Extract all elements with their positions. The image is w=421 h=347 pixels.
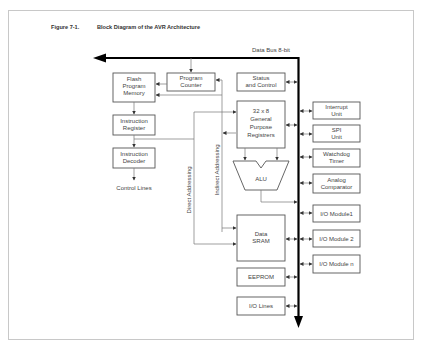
instruction-decoder-block: Instruction Decoder bbox=[113, 148, 155, 168]
svg-text:Decoder: Decoder bbox=[123, 158, 146, 164]
control-lines-label: Control Lines bbox=[116, 185, 151, 191]
svg-text:Register: Register bbox=[123, 125, 145, 131]
svg-text:EEPROM: EEPROM bbox=[248, 274, 274, 280]
peripheral-analog-comparator: Analog Comparator bbox=[313, 174, 360, 193]
svg-text:Registrers: Registrers bbox=[247, 132, 274, 138]
svg-text:I/O Module n: I/O Module n bbox=[319, 261, 353, 267]
svg-text:Interrupt: Interrupt bbox=[325, 104, 348, 110]
bus-arrow-left-icon bbox=[93, 54, 106, 63]
svg-text:I/O Module 2: I/O Module 2 bbox=[319, 236, 354, 242]
program-counter-block: Program Counter bbox=[167, 73, 215, 91]
svg-text:Analog: Analog bbox=[327, 177, 346, 183]
svg-text:Watchdog: Watchdog bbox=[323, 151, 350, 157]
avr-block-diagram: Figure 7-1. Block Diagram of the AVR Arc… bbox=[0, 0, 421, 347]
direct-addressing-label: Direct Addressing bbox=[186, 166, 192, 213]
peripheral-spi-unit: SPI Unit bbox=[313, 125, 360, 142]
svg-text:Program: Program bbox=[122, 83, 145, 89]
svg-text:Data: Data bbox=[255, 231, 268, 237]
bus-arrow-down-icon bbox=[294, 316, 303, 328]
figure-title: Block Diagram of the AVR Architecture bbox=[97, 24, 200, 30]
peripheral-io-module-1: I/O Module1 bbox=[313, 205, 360, 222]
svg-text:Counter: Counter bbox=[180, 82, 201, 88]
svg-text:SRAM: SRAM bbox=[252, 238, 269, 244]
peripheral-watchdog-timer: Watchdog Timer bbox=[313, 149, 360, 167]
alu-block: ALU bbox=[233, 161, 289, 190]
flash-program-memory-block: Flash Program Memory bbox=[113, 73, 155, 102]
svg-text:ALU: ALU bbox=[255, 176, 267, 182]
svg-text:and Control: and Control bbox=[245, 82, 276, 88]
peripheral-io-module-2: I/O Module 2 bbox=[313, 230, 360, 247]
svg-text:Unit: Unit bbox=[331, 111, 342, 117]
svg-text:Instruction: Instruction bbox=[120, 151, 148, 157]
general-purpose-registers-block: 32 x 8 General Purpose Registrers bbox=[237, 101, 285, 148]
figure-number: Figure 7-1. bbox=[51, 24, 80, 30]
data-sram-block: Data SRAM bbox=[237, 215, 285, 261]
status-and-control-block: Status and Control bbox=[237, 73, 285, 91]
eeprom-block: EEPROM bbox=[237, 268, 285, 286]
peripheral-io-module-n: I/O Module n bbox=[313, 255, 360, 273]
svg-text:Program: Program bbox=[179, 75, 202, 81]
svg-text:Timer: Timer bbox=[329, 158, 344, 164]
svg-text:General: General bbox=[250, 116, 271, 122]
data-bus-label: Data Bus 8-bit bbox=[252, 47, 290, 53]
instruction-register-block: Instruction Register bbox=[113, 115, 155, 135]
svg-text:Flash: Flash bbox=[127, 76, 142, 82]
svg-text:Purpose: Purpose bbox=[250, 124, 273, 130]
io-lines-block: I/O Lines bbox=[237, 297, 285, 315]
svg-text:Status: Status bbox=[252, 75, 269, 81]
svg-text:Comparator: Comparator bbox=[321, 184, 353, 190]
svg-text:I/O Lines: I/O Lines bbox=[249, 303, 273, 309]
svg-text:Memory: Memory bbox=[123, 90, 145, 96]
svg-text:Instruction: Instruction bbox=[120, 118, 148, 124]
peripheral-interrupt-unit: Interrupt Unit bbox=[313, 102, 360, 119]
svg-text:I/O Module1: I/O Module1 bbox=[320, 211, 353, 217]
svg-text:SPI: SPI bbox=[332, 127, 342, 133]
indirect-addressing-label: Indirect Addressing bbox=[214, 144, 220, 195]
svg-text:32 x 8: 32 x 8 bbox=[253, 108, 270, 114]
svg-text:Unit: Unit bbox=[331, 134, 342, 140]
